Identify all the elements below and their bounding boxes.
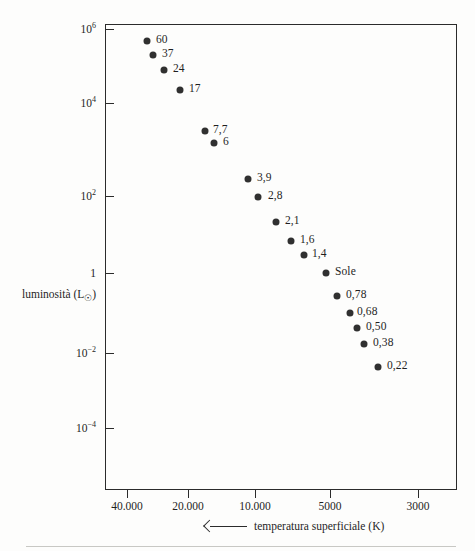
x-axis-title: temperatura superficiale (K) <box>254 520 384 532</box>
data-point <box>334 293 341 300</box>
x-axis-tick-label: 40.000 <box>111 500 143 512</box>
data-point <box>161 67 168 74</box>
data-point-label: Sole <box>335 266 356 278</box>
y-axis-tick-label: 1 <box>52 267 96 279</box>
y-axis-tick-label: 102 <box>52 190 96 202</box>
data-point-label: 2,1 <box>285 215 300 227</box>
data-point-label: 0,22 <box>387 360 408 372</box>
data-point <box>144 38 151 45</box>
data-point <box>347 310 354 317</box>
y-axis-tick-label: 104 <box>52 97 96 109</box>
x-axis-tick-label: 10.000 <box>239 500 271 512</box>
y-axis-tick-label: 10−4 <box>52 422 96 434</box>
data-point-label: 3,9 <box>257 172 272 184</box>
x-axis-tick-label: 20.000 <box>172 500 204 512</box>
data-point <box>273 219 280 226</box>
x-axis-tick <box>418 490 419 498</box>
data-point <box>354 325 361 332</box>
page-divider <box>26 546 456 547</box>
data-point-label: 37 <box>162 48 174 60</box>
y-axis-title: luminosità (L☉) <box>22 288 96 300</box>
x-axis-tick <box>127 490 128 498</box>
scatter-data-area: 603724177,763,92,82,11,61,4Sole0,780,680… <box>105 24 457 490</box>
y-axis-title-text: luminosità (L <box>22 288 84 300</box>
x-axis-tick <box>330 490 331 498</box>
data-point-label: 24 <box>173 63 185 75</box>
data-point-label: 0,78 <box>346 289 367 301</box>
y-axis-tick-label: 10−2 <box>52 347 96 359</box>
data-point-label: 1,6 <box>300 234 315 246</box>
data-point <box>150 52 157 59</box>
data-point-label: 0,68 <box>357 306 378 318</box>
data-point <box>323 270 330 277</box>
data-point <box>301 252 308 259</box>
hr-diagram-figure: 106104102110−210−4 40.00020.00010.000500… <box>0 0 475 551</box>
data-point <box>288 238 295 245</box>
data-point <box>375 364 382 371</box>
data-point-label: 17 <box>189 83 201 95</box>
data-point-label: 7,7 <box>213 124 228 136</box>
data-point-label: 0,50 <box>366 321 387 333</box>
x-axis-tick <box>188 490 189 498</box>
data-point-label: 6 <box>223 136 229 148</box>
data-point-label: 60 <box>156 34 168 46</box>
x-axis-tick-label: 5000 <box>319 500 342 512</box>
data-point <box>255 194 262 201</box>
data-point <box>361 341 368 348</box>
x-axis-title-row: temperatura superficiale (K) <box>205 520 384 532</box>
y-axis-tick-label: 106 <box>52 23 96 35</box>
left-arrow-icon <box>205 522 247 531</box>
data-point <box>177 87 184 94</box>
data-point <box>245 176 252 183</box>
data-point-label: 2,8 <box>268 190 283 202</box>
data-point <box>211 140 218 147</box>
x-axis-tick-label: 3000 <box>407 500 430 512</box>
data-point-label: 1,4 <box>312 248 327 260</box>
x-axis-tick <box>255 490 256 498</box>
data-point-label: 0,38 <box>373 337 394 349</box>
data-point <box>202 128 209 135</box>
